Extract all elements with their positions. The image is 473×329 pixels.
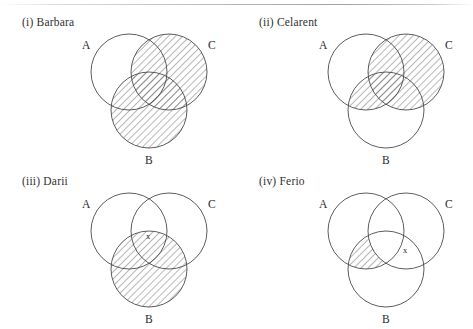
circle-label-b: B — [145, 313, 153, 325]
venn-darii: A C B x — [0, 165, 236, 329]
venn-barbara: A C B — [0, 6, 236, 170]
panel-barbara: (i) Barbara — [0, 6, 236, 170]
circle-label-a: A — [82, 39, 91, 51]
existential-marker-x: x — [403, 245, 408, 255]
circle-label-c: C — [208, 39, 216, 51]
panel-darii: (iii) Darii A C B x — [0, 165, 236, 329]
circle-label-a: A — [82, 198, 91, 210]
circle-c — [368, 193, 444, 269]
panel-celarent: (ii) Celarent — [237, 6, 473, 170]
panel-ferio: (iv) Ferio — [237, 165, 473, 329]
venn-ferio: A C B x — [237, 165, 473, 329]
circle-label-a: A — [319, 198, 328, 210]
circle-label-c: C — [445, 198, 453, 210]
circle-label-a: A — [319, 39, 328, 51]
circle-label-c: C — [208, 198, 216, 210]
venn-celarent: A C B — [237, 6, 473, 170]
figure-page: (i) Barbara — [0, 0, 473, 329]
circle-label-b: B — [382, 313, 390, 325]
scan-artifact-line — [0, 4, 473, 5]
circle-label-c: C — [445, 39, 453, 51]
